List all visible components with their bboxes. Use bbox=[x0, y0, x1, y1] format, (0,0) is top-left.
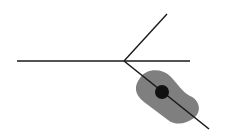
diagram-canvas bbox=[0, 0, 228, 140]
dark-dot bbox=[155, 85, 169, 99]
background bbox=[0, 0, 228, 140]
